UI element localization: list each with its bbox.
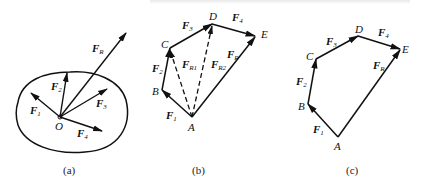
- panel-a: FR F1 F2 F3 F4 O (a): [16, 33, 127, 177]
- point-b: B: [298, 100, 305, 112]
- panel-c: A B C D E F1 F2 F3 F4 FR (c): [295, 23, 409, 177]
- point-e: E: [401, 43, 409, 55]
- force-arrow-f3: [316, 36, 358, 59]
- point-c: C: [306, 50, 314, 62]
- point-a: A: [187, 121, 195, 133]
- label-f1: F1: [165, 109, 177, 123]
- label-fr: FR: [91, 42, 104, 56]
- label-f4: F4: [76, 127, 88, 141]
- point-a: A: [333, 140, 341, 152]
- panel-b: A B C D E F1 F2 F3 F4 FR1 FR2 FR (b): [151, 10, 268, 177]
- label-fr1: FR1: [181, 58, 197, 72]
- label-f3: F3: [95, 97, 107, 111]
- label-o: O: [55, 120, 63, 132]
- point-c: C: [161, 38, 169, 50]
- force-arrow-f4: [212, 24, 255, 36]
- caption-a: (a): [63, 164, 76, 177]
- force-polygon-diagram: FR F1 F2 F3 F4 O (a) A B C D E F1 F2 F3 …: [0, 0, 423, 188]
- force-arrow-fr: [338, 50, 400, 137]
- label-f2: F2: [295, 75, 307, 89]
- point-d: D: [208, 10, 217, 22]
- label-f4: F4: [231, 11, 243, 25]
- label-f1: F1: [29, 104, 41, 118]
- point-b: B: [152, 85, 159, 97]
- label-fr: FR: [372, 59, 385, 73]
- label-f3: F3: [181, 19, 193, 33]
- caption-b: (b): [192, 164, 205, 177]
- label-f2: F2: [50, 80, 62, 94]
- label-f2: F2: [151, 62, 163, 76]
- force-arrow-f2: [308, 59, 316, 104]
- force-arrow-f2: [162, 48, 170, 90]
- point-e: E: [260, 28, 268, 40]
- label-f1: F1: [312, 123, 324, 137]
- label-fr2: FR2: [210, 58, 227, 72]
- label-f4: F4: [377, 26, 389, 40]
- label-fr: FR: [226, 48, 239, 62]
- label-f3: F3: [325, 35, 337, 49]
- caption-c: (c): [346, 164, 359, 177]
- point-d: D: [354, 23, 363, 35]
